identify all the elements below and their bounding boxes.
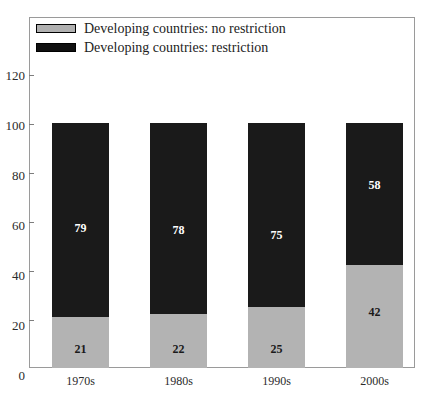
bar-group-1980s: 22 78 (150, 75, 207, 368)
bar-segment-no-restriction-1980s: 22 (150, 314, 207, 368)
legend-item-restriction: Developing countries: restriction (36, 39, 336, 56)
bar-segment-restriction-1980s: 78 (150, 123, 207, 314)
bar-segment-restriction-1990s: 75 (248, 123, 305, 307)
y-tick-label-60: 60 (0, 219, 25, 232)
y-axis: 120 100 80 60 40 20 0 (0, 0, 25, 393)
legend-swatch-icon-no-restriction (36, 24, 76, 33)
bar-segment-no-restriction-1970s: 21 (52, 317, 109, 369)
bar-segment-restriction-2000s: 58 (346, 123, 403, 265)
bar-group-2000s: 42 58 (346, 75, 403, 368)
legend-label-restriction: Developing countries: restriction (84, 40, 268, 55)
bar-group-1970s: 21 79 (52, 75, 109, 368)
legend-swatch-icon-restriction (36, 43, 76, 52)
y-tick-mark-80 (29, 124, 34, 125)
y-tick-mark-0b (29, 320, 34, 321)
bar-value-no-restriction-1980s: 22 (150, 343, 207, 355)
y-tick-mark-100 (29, 75, 34, 76)
bar-value-no-restriction-1970s: 21 (52, 343, 109, 355)
y-tick-label-20: 20 (0, 319, 25, 332)
legend-item-no-restriction: Developing countries: no restriction (36, 20, 336, 37)
x-tick-label-1990s: 1990s (248, 375, 305, 387)
bar-value-restriction-1990s: 75 (248, 229, 305, 241)
x-tick-label-1970s: 1970s (52, 375, 109, 387)
y-tick-mark-40 (29, 222, 34, 223)
legend-label-no-restriction: Developing countries: no restriction (84, 21, 286, 36)
y-tick-label-100: 100 (0, 119, 25, 132)
bar-value-restriction-1970s: 79 (52, 222, 109, 234)
bar-segment-no-restriction-1990s: 25 (248, 307, 305, 368)
x-tick-label-2000s: 2000s (346, 375, 403, 387)
bar-value-restriction-1980s: 78 (150, 224, 207, 236)
bar-value-no-restriction-1990s: 25 (248, 343, 305, 355)
y-tick-label-120: 120 (0, 69, 25, 82)
y-tick-label-0: 0 (0, 369, 25, 382)
y-tick-mark-60 (29, 173, 34, 174)
chart-legend: Developing countries: no restriction Dev… (36, 20, 336, 58)
bar-value-restriction-2000s: 58 (346, 179, 403, 191)
x-tick-label-1980s: 1980s (150, 375, 207, 387)
y-tick-mark-20 (29, 271, 34, 272)
stacked-bar-chart: 120 100 80 60 40 20 0 21 79 22 78 25 (0, 0, 427, 393)
bar-segment-restriction-1970s: 79 (52, 123, 109, 317)
bar-value-no-restriction-2000s: 42 (346, 306, 403, 318)
bar-group-1990s: 25 75 (248, 75, 305, 368)
bar-segment-no-restriction-2000s: 42 (346, 265, 403, 368)
y-tick-label-40: 40 (0, 269, 25, 282)
y-tick-label-80: 80 (0, 169, 25, 182)
